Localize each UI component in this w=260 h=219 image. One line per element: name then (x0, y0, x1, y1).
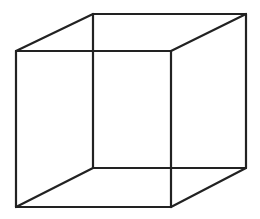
cube-edge-front-bottom-right-to-back-bottom-right (171, 168, 246, 207)
cube-edge-front-bottom-left-to-back-bottom-left (16, 168, 93, 207)
necker-cube-diagram (0, 0, 260, 219)
cube-edge-front-top-right-to-back-top-right (171, 14, 246, 51)
cube-edge-front-top-left-to-back-top-left (16, 14, 93, 51)
